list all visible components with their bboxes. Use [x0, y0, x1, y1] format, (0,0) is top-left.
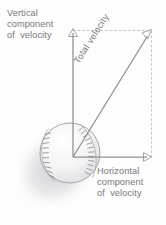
horizontal-component-label: Horizontal component of velocity — [97, 166, 143, 200]
velocity-components-diagram: Vertical component of velocity Horizonta… — [0, 0, 166, 225]
baseball — [40, 123, 100, 183]
vertical-component-label: Vertical component of velocity — [7, 8, 53, 42]
